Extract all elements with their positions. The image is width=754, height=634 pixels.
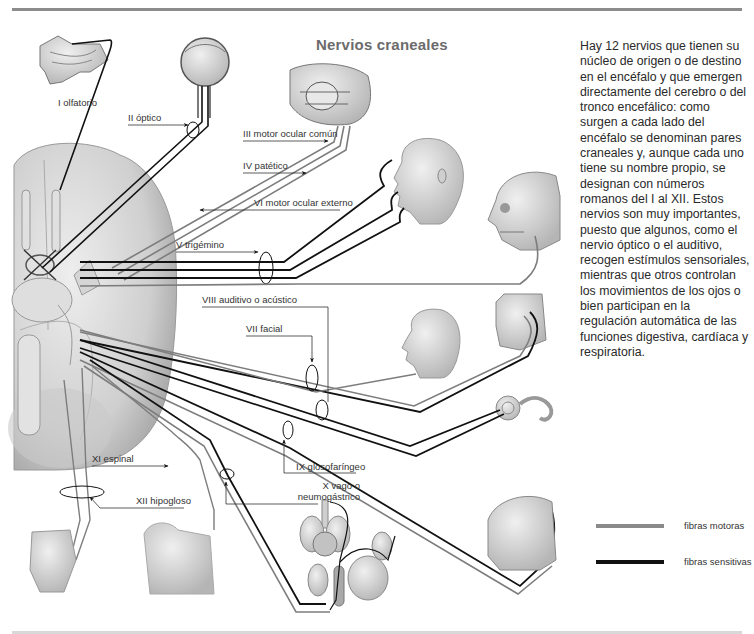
label-facial: VII facial [246, 323, 282, 334]
mouth-tongue-illustration [30, 530, 76, 592]
label-oculomotor: III motor ocular común [243, 128, 338, 139]
description-text: Hay 12 nervios que tienen su núcleo de o… [580, 39, 750, 360]
pharynx-illustration [488, 496, 556, 570]
oral-cavity-illustration [496, 294, 546, 350]
label-spinal: XI espinal [92, 453, 134, 464]
label-optic: II óptico [128, 112, 161, 123]
label-vagus-line1: X vago o [284, 480, 360, 491]
inner-ear-illustration [496, 396, 551, 420]
legend-sensory: fibras sensitivas [596, 556, 752, 567]
label-olfactory: I olfatorio [58, 97, 97, 108]
brain [8, 143, 177, 470]
neck-illustration [144, 523, 214, 594]
label-trigeminal: V trigémino [176, 239, 224, 250]
legend-motor-swatch [596, 524, 664, 528]
label-vagus-line2: neumogástrico [284, 491, 360, 502]
label-glossopharyngeal: IX glosofaríngeo [296, 461, 365, 472]
label-auditory: VIII auditivo o acústico [202, 294, 297, 305]
legend-motor-label: fibras motoras [684, 520, 744, 531]
thoracic-abdominal-organs-illustration [300, 500, 392, 606]
label-abducens: VI motor ocular externo [254, 197, 353, 208]
legend-sensory-label: fibras sensitivas [684, 556, 752, 567]
label-vagus: X vago o neumogástrico [284, 480, 360, 502]
eye-muscles-illustration [290, 64, 371, 125]
label-trochlear: IV patético [243, 160, 288, 171]
skull-illustration [488, 172, 560, 250]
legend-motor: fibras motoras [596, 520, 744, 531]
diagram-title: Nervios craneales [316, 36, 448, 53]
facial-muscles-illustration [402, 309, 460, 378]
eye-illustration [181, 38, 229, 118]
label-hypoglossal: XII hipogloso [136, 495, 191, 506]
head-illustration [394, 138, 463, 224]
legend-sensory-swatch [596, 560, 664, 564]
